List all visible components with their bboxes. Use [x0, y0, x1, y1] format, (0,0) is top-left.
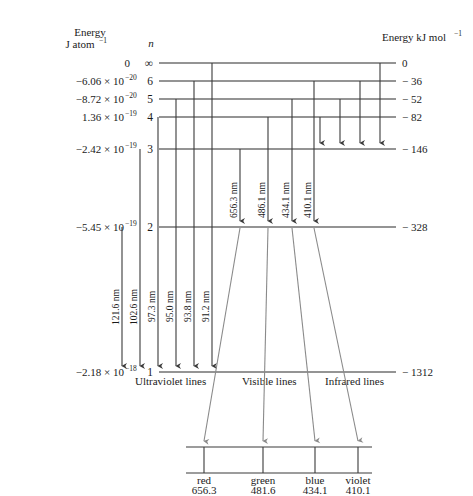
vis-label-656-3: 656.3 nm	[229, 182, 239, 219]
n-label-2: 2	[147, 221, 153, 233]
ultraviolet-lines-label: Ultraviolet lines	[135, 375, 206, 387]
left-energy-6-exp: −20	[125, 73, 137, 82]
n-label-6: 6	[147, 75, 153, 87]
right-energy-2: − 328	[402, 221, 428, 233]
spectrum-wavelength-violet: 410.1	[346, 484, 371, 496]
spectrum-wavelength-green: 481.6	[251, 484, 276, 496]
left-energy-5-exp: −20	[125, 91, 137, 100]
n-label-inf: ∞	[145, 57, 153, 69]
left-energy-3-exp: −19	[125, 141, 137, 150]
right-energy-4: − 82	[402, 111, 422, 123]
left-energy-4-exp: −19	[125, 109, 137, 118]
right-axis-title-text: Energy kJ mol	[382, 31, 446, 43]
left-energy-labels: 0 −6.06 × 10 −20 −8.72 × 10 −20 1.36 × 1…	[76, 57, 137, 378]
spectrum-wavelength-blue: 434.1	[303, 484, 328, 496]
uv-label-121-6: 121.6 nm	[111, 289, 121, 326]
right-energy-5: − 52	[402, 93, 422, 105]
visible-transitions: 656.3 nm 486.1 nm 434.1 nm 410.1 nm	[229, 81, 314, 221]
left-energy-2: −5.45 × 10	[76, 221, 125, 233]
right-energy-inf: 0	[402, 57, 408, 69]
uv-label-95-0: 95.0 nm	[165, 290, 175, 322]
infrared-transitions	[320, 63, 380, 143]
n-label-4: 4	[147, 111, 153, 123]
right-energy-6: − 36	[402, 75, 422, 87]
right-energy-labels: 0 − 36 − 52 − 82 − 146 − 328 − 1312	[402, 57, 433, 378]
spectrum-box	[186, 447, 372, 473]
visible-lines-label: Visible lines	[242, 375, 297, 387]
right-axis-title: Energy kJ mol −1	[382, 29, 462, 43]
left-axis-title: Energy J atom −1	[65, 26, 107, 50]
n-label-3: 3	[147, 143, 153, 155]
ray-green	[263, 228, 268, 441]
vis-label-486-1: 486.1 nm	[257, 182, 267, 219]
ray-red	[204, 228, 240, 441]
quantum-number-labels: ∞ 6 5 4 3 2 1	[145, 57, 153, 378]
left-energy-2-exp: −19	[125, 219, 137, 228]
vis-label-434-1: 434.1 nm	[281, 182, 291, 219]
left-energy-3: −2.42 × 10	[76, 143, 125, 155]
uv-label-102-6: 102.6 nm	[129, 289, 139, 326]
right-axis-title-superscript: −1	[454, 29, 462, 38]
vis-label-410-1: 410.1 nm	[303, 182, 313, 219]
right-energy-3: − 146	[402, 143, 428, 155]
spectrum-labels: red 656.3 green 481.6 blue 434.1 violet …	[192, 474, 371, 496]
left-axis-title-superscript: −1	[99, 36, 107, 45]
ray-violet	[314, 228, 358, 441]
left-axis-title-line2: J atom	[65, 38, 94, 50]
right-energy-1: − 1312	[402, 366, 433, 378]
ray-blue	[292, 228, 315, 441]
uv-label-93-8: 93.8 nm	[183, 290, 193, 322]
quantum-number-title: n	[148, 37, 154, 49]
spectrum-wavelength-red: 656.3	[192, 484, 217, 496]
left-energy-6: −6.06 × 10	[76, 75, 125, 87]
left-energy-1: −2.18 × 10	[76, 366, 125, 378]
uv-label-97-3: 97.3 nm	[147, 290, 157, 322]
energy-level-diagram: Energy J atom −1 n Energy kJ mol −1 0 −6…	[0, 0, 473, 496]
uv-label-91-2: 91.2 nm	[201, 290, 211, 322]
left-energy-5: −8.72 × 10	[76, 93, 125, 105]
n-label-5: 5	[147, 93, 153, 105]
spectrum-projection-rays	[204, 228, 358, 441]
left-energy-1-exp: −18	[125, 364, 137, 373]
infrared-lines-label: Infrared lines	[325, 375, 384, 387]
left-energy-inf: 0	[125, 57, 131, 69]
left-energy-4: 1.36 × 10	[82, 111, 124, 123]
